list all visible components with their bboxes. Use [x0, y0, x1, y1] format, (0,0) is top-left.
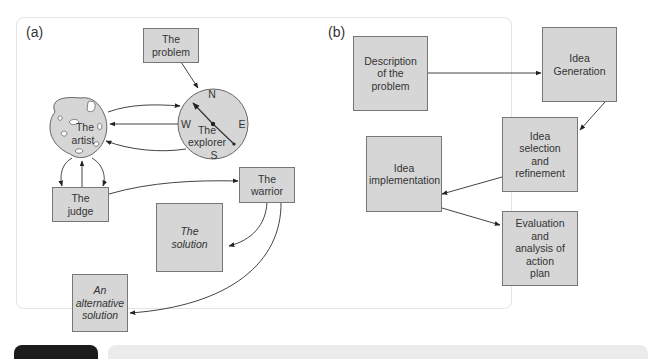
node-warrior: The warrior: [239, 167, 295, 203]
node-idea-generation: Idea Generation: [542, 27, 617, 102]
panel-b-label: (b): [328, 24, 345, 40]
node-description: Description of the problem: [353, 36, 428, 111]
svg-text:N: N: [208, 88, 216, 100]
svg-text:W: W: [181, 118, 191, 130]
node-judge: The judge: [52, 187, 109, 222]
node-evaluation: Evaluation and analysis of action plan: [502, 211, 578, 286]
artist-palette-icon: The artist: [50, 98, 107, 158]
node-idea-selection: Idea selection and refinement: [502, 117, 578, 192]
svg-text:The: The: [76, 121, 94, 133]
caption-bar: [108, 345, 648, 359]
svg-text:E: E: [238, 118, 245, 130]
svg-text:explorer: explorer: [188, 136, 226, 148]
compass-icon: N S E W The explorer: [178, 88, 248, 161]
svg-text:artist: artist: [72, 134, 95, 146]
panel-a-label: (a): [26, 24, 43, 40]
node-problem: The problem: [143, 28, 199, 63]
node-alternative-solution: An alternative solution: [72, 274, 128, 332]
caption-tab-dark: [14, 345, 98, 359]
node-idea-implementation: Idea implementation: [366, 136, 442, 212]
svg-text:The: The: [198, 124, 216, 136]
svg-text:S: S: [210, 149, 217, 161]
node-solution: The solution: [156, 203, 223, 272]
